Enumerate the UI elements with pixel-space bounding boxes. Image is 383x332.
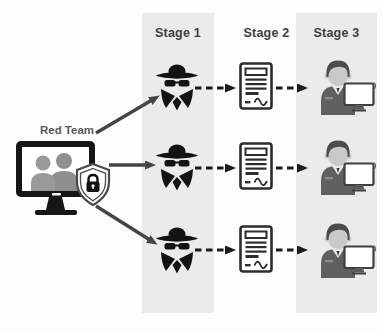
spy-icon-row2 [154,141,200,191]
stage1-heading: Stage 1 [142,26,214,40]
stage3-heading: Stage 3 [296,26,377,40]
monitor-stand [46,197,65,210]
document-icon-row2 [239,142,273,190]
analyst-at-computer-icon-row3 [311,220,377,278]
monitor-power-light [52,193,61,196]
red-team-label: Red Team [18,124,116,136]
analyst-at-computer-icon-row1 [311,57,377,115]
monitor-base [35,210,77,215]
document-icon-row3 [239,225,273,273]
document-icon-row1 [239,62,273,110]
stage2-heading: Stage 2 [230,26,303,40]
red-team-stages-diagram: Stage 1 Stage 2 Stage 3 Red Team [0,0,383,332]
security-shield-lock-icon [73,162,113,207]
analyst-at-computer-icon-row2 [311,137,377,195]
spy-icon-row1 [154,61,200,111]
spy-icon-row3 [154,224,200,274]
